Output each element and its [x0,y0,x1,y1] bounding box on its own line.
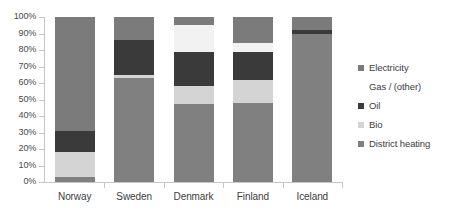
bar-segment-gas-other[interactable] [174,25,214,51]
y-axis-label: 60% [2,78,36,87]
y-axis-label: 50% [2,95,36,104]
bar-segment-district-heating[interactable] [114,78,154,182]
bar-segment-oil[interactable] [55,131,95,152]
bar-segment-bio[interactable] [55,152,95,177]
bar-segment-electricity[interactable] [114,17,154,40]
bar-segment-district-heating[interactable] [55,177,95,182]
legend-item-oil[interactable]: Oil [358,96,456,115]
x-axis-tick [104,183,105,188]
bar-sweden[interactable] [114,17,154,182]
bar-segment-oil[interactable] [114,40,154,75]
bar-segment-bio[interactable] [174,86,214,104]
bar-norway[interactable] [55,17,95,182]
legend-item-gas-other[interactable]: Gas / (other) [358,77,456,96]
x-axis-line [44,182,343,183]
bar-segment-gas-other[interactable] [233,43,273,51]
legend-label: Oil [369,100,380,111]
y-axis-label: 100% [2,12,36,21]
legend-swatch-icon [358,84,364,90]
y-axis-label: 70% [2,62,36,71]
bar-segment-bio[interactable] [233,80,273,103]
legend-swatch-icon [358,65,364,71]
x-axis-tick [283,183,284,188]
legend-item-bio[interactable]: Bio [358,115,456,134]
bar-denmark[interactable] [174,17,214,182]
bar-segment-electricity[interactable] [292,17,332,30]
bar-segment-district-heating[interactable] [292,34,332,183]
x-axis-label-iceland: Iceland [277,191,347,203]
y-axis-label: 90% [2,29,36,38]
legend-label: District heating [369,138,430,149]
bar-segment-electricity[interactable] [55,17,95,131]
bar-segment-oil[interactable] [233,52,273,80]
bar-iceland[interactable] [292,17,332,182]
bar-segment-district-heating[interactable] [233,103,273,182]
y-axis-label: 10% [2,161,36,170]
legend-swatch-icon [358,122,364,128]
bar-segment-electricity[interactable] [174,17,214,25]
x-axis-tick [342,183,343,188]
legend-swatch-icon [358,141,364,147]
legend-label: Bio [369,119,382,130]
stacked-bar-chart: 100%90%80%70%60%50%40%30%20%10%0% Norway… [0,0,458,215]
legend-item-district-heating[interactable]: District heating [358,134,456,153]
legend-item-electricity[interactable]: Electricity [358,58,456,77]
bar-segment-district-heating[interactable] [174,104,214,182]
y-axis-label: 80% [2,45,36,54]
legend-label: Gas / (other) [369,81,421,92]
y-axis-label: 40% [2,111,36,120]
plot-area [45,17,342,182]
x-axis-tick [164,183,165,188]
legend-swatch-icon [358,103,364,109]
y-axis-label: 0% [2,177,36,186]
y-axis-label: 20% [2,144,36,153]
bar-finland[interactable] [233,17,273,182]
chart-legend: ElectricityGas / (other)OilBioDistrict h… [358,58,456,153]
y-axis-label: 30% [2,128,36,137]
x-axis-tick [223,183,224,188]
bar-segment-electricity[interactable] [233,17,273,43]
bar-segment-bio[interactable] [114,75,154,78]
bar-segment-oil[interactable] [174,52,214,87]
bar-segment-oil[interactable] [292,30,332,33]
legend-label: Electricity [369,62,409,73]
